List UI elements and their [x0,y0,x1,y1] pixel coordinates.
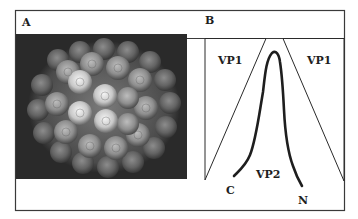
vp2-label: VP2 [255,168,280,181]
panel-b-label: B [205,14,214,27]
n-terminus-label: N [298,194,308,207]
figure-svg: A [0,0,358,219]
panel-a-label: A [21,16,31,29]
vp1-right-label: VP1 [306,54,331,67]
c-terminus-label: C [226,184,235,197]
figure: A [0,0,358,219]
panel-a: A [16,16,187,179]
vp1-left-label: VP1 [217,54,242,67]
